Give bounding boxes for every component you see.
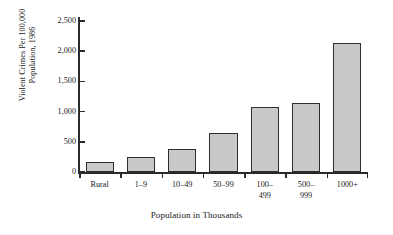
x-axis-category-label-line: 10–49 — [162, 180, 203, 191]
x-axis-category-label: 500–999 — [285, 180, 326, 206]
x-axis-tick-mark — [203, 173, 205, 178]
y-axis-tick: 1,500 — [32, 76, 84, 86]
bar-slot — [244, 21, 285, 172]
x-axis-tick-mark — [367, 173, 369, 178]
x-axis-category-label-line: 500– — [285, 180, 326, 191]
y-axis-tick-label: 2,000 — [58, 46, 80, 56]
x-axis-category-label-line: Rural — [79, 180, 120, 191]
y-axis-tick: 500 — [32, 137, 84, 147]
bar-slot — [120, 21, 161, 172]
x-axis-ticks — [79, 173, 368, 178]
y-axis-tick-label: 1,500 — [58, 76, 80, 86]
bars-layer — [79, 21, 368, 172]
bar — [168, 149, 196, 172]
plot-area: 05001,0001,5002,0002,500 Rural1–910–4950… — [78, 21, 368, 172]
y-axis-tick-label: 2,500 — [58, 16, 80, 26]
bar-slot — [327, 21, 368, 172]
bar — [292, 103, 320, 172]
y-axis-tick: 2,000 — [32, 46, 84, 56]
x-axis-title: Population in Thousands — [0, 210, 393, 220]
x-axis-category-label: 100–499 — [244, 180, 285, 206]
x-axis-category-label: 50–99 — [203, 180, 244, 206]
y-axis-tick-label: 500 — [64, 137, 80, 147]
x-axis-category-label-line: 50–99 — [203, 180, 244, 191]
y-axis-title-line-1: Violent Crimes Per 100,000 — [18, 9, 29, 102]
bar — [127, 157, 155, 172]
x-axis-category-label: 10–49 — [162, 180, 203, 206]
y-axis-tick-label: 1,000 — [58, 107, 80, 117]
x-axis-tick-mark — [79, 173, 81, 178]
bar-slot — [285, 21, 326, 172]
bar — [86, 162, 114, 172]
x-axis-tick-mark — [162, 173, 164, 178]
x-axis-category-label-line: 499 — [244, 191, 285, 202]
bar — [333, 43, 361, 172]
x-axis-tick-mark — [120, 173, 122, 178]
bar-slot — [79, 21, 120, 172]
violent-crimes-bar-chart: Violent Crimes Per 100,000 Population, 1… — [0, 0, 393, 235]
x-axis-tick-mark — [244, 173, 246, 178]
x-axis-category-label: 1000+ — [327, 180, 368, 206]
bar-slot — [203, 21, 244, 172]
x-axis-category-label: 1–9 — [120, 180, 161, 206]
x-axis-category-label: Rural — [79, 180, 120, 206]
bar — [209, 133, 237, 172]
x-axis-category-labels: Rural1–910–4950–99100–499500–9991000+ — [79, 180, 368, 206]
bar-slot — [162, 21, 203, 172]
x-axis-category-label-line: 999 — [285, 191, 326, 202]
x-axis-tick-mark — [285, 173, 287, 178]
x-axis-tick-mark — [327, 173, 329, 178]
x-axis-category-label-line: 100– — [244, 180, 285, 191]
y-axis-tick: 0 — [32, 167, 84, 177]
y-axis-tick: 1,000 — [32, 107, 84, 117]
y-axis-tick: 2,500 — [32, 16, 84, 26]
x-axis-category-label-line: 1–9 — [120, 180, 161, 191]
bar — [251, 107, 279, 172]
x-axis-category-label-line: 1000+ — [327, 180, 368, 191]
